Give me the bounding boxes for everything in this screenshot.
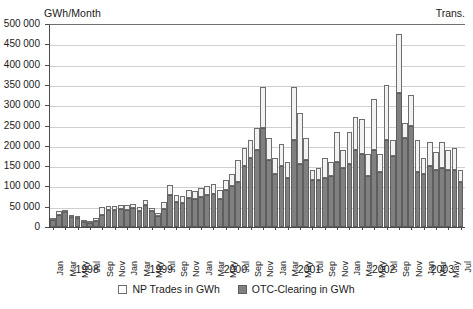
- bar-column: [266, 138, 272, 227]
- bar-segment-np-trades: [421, 158, 427, 174]
- x-axis-line: [49, 227, 465, 228]
- x-tick-mark: [288, 227, 289, 230]
- bar-segment-np-trades: [229, 174, 235, 186]
- bar-segment-otc-clearing: [99, 215, 105, 227]
- bar-segment-np-trades: [353, 117, 359, 149]
- bar-segment-np-trades: [99, 207, 105, 215]
- bar-segment-np-trades: [384, 85, 390, 140]
- bar-column: [149, 208, 155, 227]
- x-tick-mark: [226, 227, 227, 230]
- bar-segment-otc-clearing: [248, 158, 254, 227]
- bar-column: [439, 142, 445, 227]
- bar-column: [365, 154, 371, 227]
- bar-column: [56, 211, 62, 227]
- bar-segment-np-trades: [87, 221, 93, 223]
- bar-segment-otc-clearing: [143, 205, 149, 227]
- bar-segment-np-trades: [347, 132, 353, 164]
- bar-segment-otc-clearing: [433, 170, 439, 227]
- chart-figure: GWh/Month Trans. 050 000100 000150 00020…: [0, 0, 473, 309]
- bar-segment-np-trades: [359, 119, 365, 154]
- x-tick-mark: [238, 227, 239, 230]
- bar-segment-np-trades: [204, 186, 210, 195]
- bar-column: [452, 148, 458, 227]
- bar-column: [384, 85, 390, 227]
- bar-segment-np-trades: [217, 190, 223, 199]
- bar-segment-otc-clearing: [415, 172, 421, 227]
- bar-column: [217, 190, 223, 227]
- bar-segment-otc-clearing: [303, 160, 309, 227]
- bar-segment-otc-clearing: [137, 211, 143, 227]
- x-tick-mark: [115, 227, 116, 230]
- bar-column: [328, 162, 334, 227]
- bar-segment-otc-clearing: [427, 166, 433, 227]
- bar-segment-np-trades: [316, 168, 322, 180]
- bars-layer: [50, 24, 465, 227]
- bar-column: [112, 206, 118, 227]
- bar-segment-otc-clearing: [285, 178, 291, 227]
- x-axis-year-labels: 199819992000200120022003: [50, 263, 465, 279]
- bar-segment-otc-clearing: [279, 166, 285, 227]
- bar-segment-np-trades: [452, 148, 458, 170]
- bar-segment-np-trades: [211, 184, 217, 194]
- bar-column: [303, 138, 309, 227]
- bar-segment-otc-clearing: [316, 180, 322, 227]
- bar-column: [353, 117, 359, 227]
- bar-segment-np-trades: [161, 202, 167, 209]
- bar-segment-np-trades: [260, 87, 266, 128]
- year-label: 1999: [150, 263, 173, 275]
- bar-segment-otc-clearing: [118, 209, 124, 227]
- bar-segment-np-trades: [118, 205, 124, 209]
- bar-segment-otc-clearing: [353, 150, 359, 227]
- bar-column: [272, 158, 278, 227]
- bar-segment-np-trades: [180, 196, 186, 203]
- bar-segment-np-trades: [149, 208, 155, 211]
- bar-segment-np-trades: [415, 140, 421, 172]
- bar-segment-otc-clearing: [69, 217, 75, 227]
- x-axis-tick-labels: JanMarMayJulSepNovJanMarMayJulSepNovJanM…: [50, 229, 465, 263]
- legend-item[interactable]: OTC-Clearing in GWh: [238, 283, 355, 295]
- bar-column: [69, 215, 75, 227]
- bar-segment-otc-clearing: [266, 160, 272, 227]
- bar-column: [198, 188, 204, 227]
- x-tick-mark: [461, 227, 462, 230]
- bar-column: [155, 213, 161, 227]
- bar-column: [285, 162, 291, 227]
- legend-swatch-icon: [238, 285, 247, 294]
- x-tick-mark: [189, 227, 190, 230]
- bar-segment-np-trades: [297, 113, 303, 164]
- bar-column: [260, 87, 266, 227]
- bar-segment-otc-clearing: [62, 212, 68, 227]
- bar-segment-otc-clearing: [254, 150, 260, 227]
- bar-segment-np-trades: [433, 152, 439, 170]
- legend-item[interactable]: NP Trades in GWh: [118, 283, 219, 295]
- bar-segment-np-trades: [254, 128, 260, 150]
- bar-segment-np-trades: [279, 144, 285, 166]
- bar-column: [396, 34, 402, 227]
- bar-column: [458, 170, 464, 227]
- x-tick-mark: [411, 227, 412, 230]
- bar-segment-otc-clearing: [235, 182, 241, 227]
- bar-column: [106, 206, 112, 227]
- bar-segment-np-trades: [124, 205, 130, 210]
- bar-segment-otc-clearing: [223, 190, 229, 227]
- bar-column: [291, 87, 297, 227]
- bar-segment-np-trades: [62, 210, 68, 212]
- bar-column: [433, 152, 439, 227]
- bar-column: [161, 202, 167, 227]
- x-tick-mark: [152, 227, 153, 230]
- bar-segment-np-trades: [143, 200, 149, 205]
- bar-segment-otc-clearing: [217, 199, 223, 227]
- bar-column: [334, 132, 340, 227]
- y-tick-label: 450 000: [4, 39, 40, 49]
- bar-segment-otc-clearing: [390, 156, 396, 227]
- bar-segment-otc-clearing: [408, 126, 414, 228]
- bar-segment-otc-clearing: [297, 164, 303, 227]
- x-tick-label: Jul: [464, 261, 473, 273]
- bar-segment-otc-clearing: [402, 138, 408, 227]
- bar-segment-otc-clearing: [310, 180, 316, 227]
- bar-segment-otc-clearing: [384, 140, 390, 227]
- bar-column: [223, 180, 229, 227]
- year-label: 2003: [431, 263, 454, 275]
- bar-segment-np-trades: [112, 206, 118, 210]
- bar-column: [445, 150, 451, 227]
